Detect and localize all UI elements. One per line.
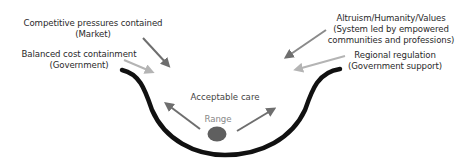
label-acceptable-care: Acceptable care <box>180 92 270 102</box>
label-competitive: Competitive pressures contained (Market) <box>18 18 168 40</box>
label-altruism-line2: (System led by empowered <box>326 24 456 35</box>
label-range: Range <box>196 114 240 124</box>
label-balanced: Balanced cost containment (Government) <box>18 49 140 71</box>
range-right-arrow <box>237 110 272 131</box>
label-balanced-line2: (Government) <box>18 60 140 71</box>
competitive-arrow <box>143 38 167 64</box>
acceptable-care-diagram: Competitive pressures contained (Market)… <box>0 0 470 166</box>
label-altruism: Altruism/Humanity/Values (System led by … <box>326 13 456 46</box>
label-regional: Regional regulation (Government support) <box>340 50 450 72</box>
label-regional-line1: Regional regulation <box>340 50 450 61</box>
label-balanced-line1: Balanced cost containment <box>18 49 140 60</box>
label-competitive-line2: (Market) <box>18 29 168 40</box>
label-altruism-line1: Altruism/Humanity/Values <box>326 13 456 24</box>
altruism-arrow <box>288 30 326 56</box>
label-regional-line2: (Government support) <box>340 61 450 72</box>
range-ball <box>208 127 227 142</box>
bowl-curve <box>122 69 340 155</box>
label-competitive-line1: Competitive pressures contained <box>18 18 168 29</box>
label-altruism-line3: communities and professions) <box>326 35 456 46</box>
